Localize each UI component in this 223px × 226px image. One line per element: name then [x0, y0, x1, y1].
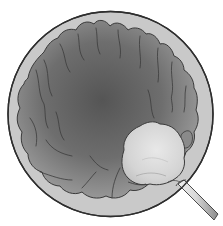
lesion — [122, 122, 185, 185]
endoscopic-illustration: Endoscopic circular field of view showin… — [0, 0, 223, 226]
illustration-canvas — [0, 0, 223, 226]
